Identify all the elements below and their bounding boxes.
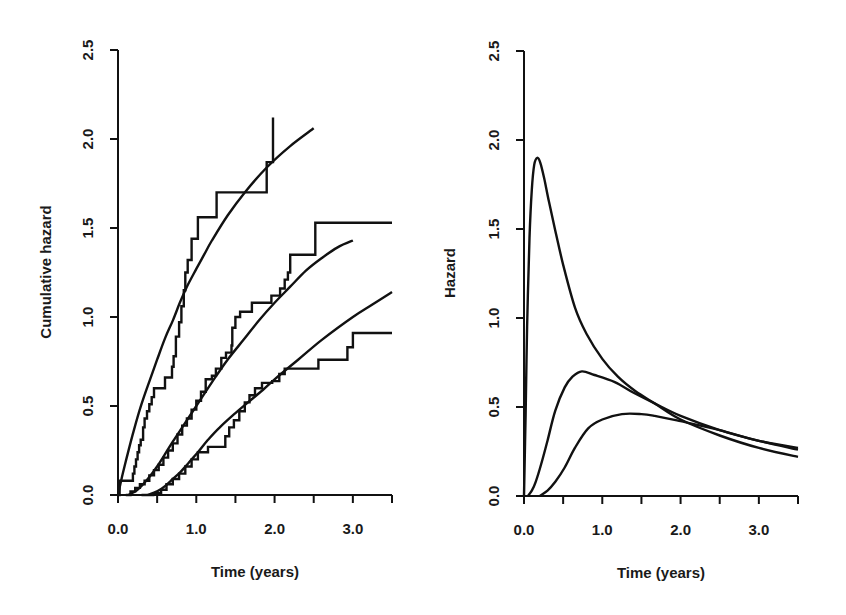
x-tick-label: 3.0 [748, 521, 769, 538]
y-tick-label: 2.0 [79, 129, 96, 150]
y-tick-label: 0.0 [485, 486, 502, 507]
x-tick-label: 3.0 [342, 520, 363, 537]
left-x-axis-title: Time (years) [211, 563, 299, 580]
y-tick-label: 2.0 [485, 130, 502, 151]
y-tick-label: 1.0 [79, 307, 96, 328]
left-y-axis-title: Cumulative hazard [37, 205, 54, 338]
y-tick-label: 0.5 [79, 396, 96, 417]
x-tick-label: 2.0 [264, 520, 285, 537]
y-tick-label: 2.5 [485, 41, 502, 62]
group-3-empirical-line [142, 333, 393, 495]
right-x-axis-title: Time (years) [617, 564, 705, 581]
y-tick-label: 1.5 [79, 218, 96, 239]
x-tick-label: 2.0 [670, 521, 691, 538]
y-tick-label: 2.5 [79, 40, 96, 61]
x-tick-label: 1.0 [186, 520, 207, 537]
y-tick-label: 1.0 [485, 308, 502, 329]
left-x-axis: 0.01.02.03.0 [108, 495, 392, 537]
x-tick-label: 1.0 [592, 521, 613, 538]
group-1-empirical-line [118, 118, 273, 495]
y-tick-label: 0.5 [485, 397, 502, 418]
left-plot-area [118, 118, 392, 495]
y-tick-label: 1.5 [485, 219, 502, 240]
cumulative-hazard-panel: 0.00.51.01.52.02.5 0.01.02.03.0 Cumulati… [37, 40, 392, 580]
group-1-fitted-line [118, 128, 314, 495]
right-y-axis: 0.00.51.01.52.02.5 [485, 41, 524, 507]
figure: 0.00.51.01.52.02.5 0.01.02.03.0 Cumulati… [0, 0, 846, 615]
right-plot-area [524, 158, 798, 496]
y-tick-label: 0.0 [79, 485, 96, 506]
right-x-axis: 0.01.02.03.0 [514, 496, 798, 538]
x-tick-label: 0.0 [108, 520, 129, 537]
x-tick-label: 0.0 [514, 521, 535, 538]
left-y-axis: 0.00.51.01.52.02.5 [79, 40, 118, 506]
hazard-panel: 0.00.51.01.52.02.5 0.01.02.03.0 Hazard T… [441, 41, 798, 581]
group-3-fitted-line [148, 292, 392, 495]
right-y-axis-title: Hazard [441, 248, 458, 298]
group-3-hazard-line [540, 414, 798, 496]
group-1-hazard-line [524, 158, 798, 496]
group-2-hazard-line [528, 371, 798, 496]
